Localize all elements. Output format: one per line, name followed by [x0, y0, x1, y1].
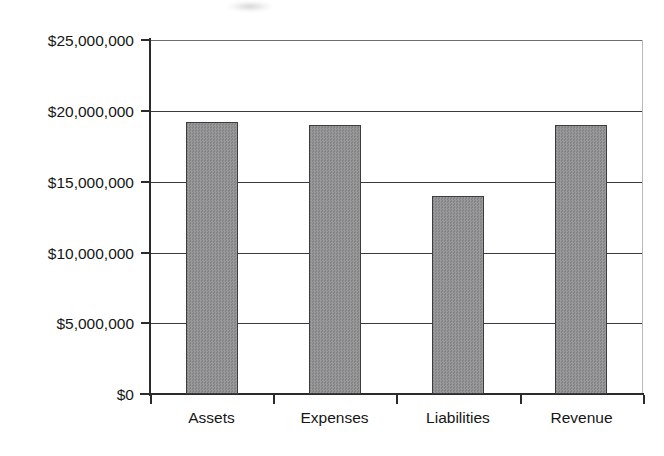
x-category-label-revenue: Revenue — [520, 409, 643, 427]
y-tick-label-15000000: $15,000,000 — [0, 174, 134, 192]
y-tick-label-25000000: $25,000,000 — [0, 32, 134, 50]
plot-border-right — [642, 40, 643, 394]
bar-assets — [186, 122, 238, 394]
y-tick-15000000 — [141, 181, 151, 183]
x-category-label-assets: Assets — [150, 409, 273, 427]
x-tick-0 — [150, 395, 152, 404]
y-axis-line — [149, 38, 151, 396]
bar-revenue — [555, 125, 607, 394]
y-tick-label-10000000: $10,000,000 — [0, 245, 134, 263]
y-tick-10000000 — [141, 252, 151, 254]
bar-liabilities — [432, 196, 484, 394]
y-tick-20000000 — [141, 110, 151, 112]
x-tick-4 — [643, 395, 645, 404]
scan-artifact-smudge — [228, 1, 272, 12]
y-tick-label-5000000: $5,000,000 — [0, 315, 134, 333]
x-tick-3 — [520, 395, 522, 404]
bar-chart: $25,000,000 $20,000,000 $15,000,000 $10,… — [0, 0, 664, 456]
bar-expenses — [309, 125, 361, 394]
y-tick-label-0: $0 — [0, 386, 134, 404]
x-tick-1 — [273, 395, 275, 404]
y-tick-25000000 — [141, 39, 151, 41]
y-tick-5000000 — [141, 322, 151, 324]
y-tick-label-20000000: $20,000,000 — [0, 103, 134, 121]
x-tick-2 — [396, 395, 398, 404]
x-category-label-liabilities: Liabilities — [396, 409, 520, 427]
x-category-label-expenses: Expenses — [273, 409, 396, 427]
